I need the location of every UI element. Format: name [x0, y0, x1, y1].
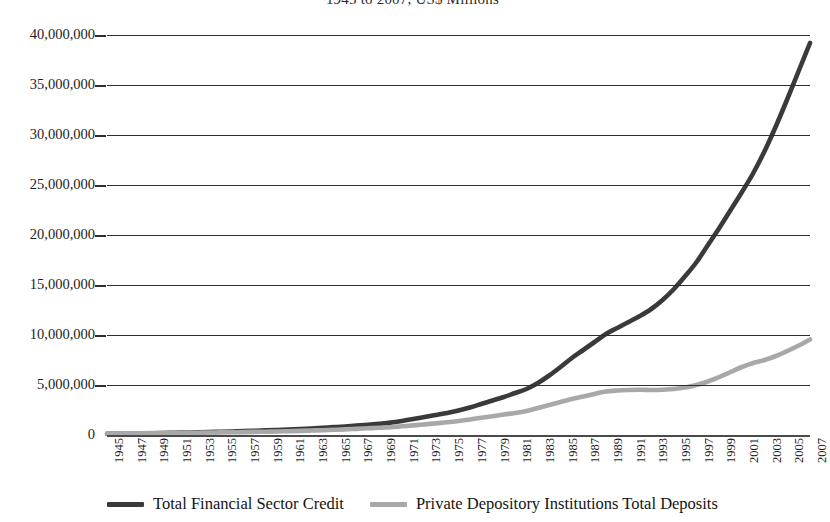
x-axis-tick-label: 1991 [634, 438, 649, 463]
x-axis-labels: 1945194719491951195319551957195919611963… [107, 438, 810, 486]
gridline [107, 335, 810, 336]
y-axis-tick-mark [95, 35, 106, 37]
x-axis-tick-label: 2003 [770, 438, 785, 463]
y-axis-labels: 40,000,00035,000,00030,000,00025,000,000… [0, 0, 95, 522]
x-axis-tick-label: 1981 [520, 438, 535, 463]
legend-color-swatch [370, 502, 407, 507]
x-axis-line [107, 435, 810, 437]
y-axis-tick-mark [95, 85, 106, 87]
x-axis-tick-label: 1965 [339, 438, 354, 463]
x-axis-tick-label: 1949 [157, 438, 172, 463]
y-axis-tick-mark [95, 335, 106, 337]
x-axis-tick-label: 1953 [203, 438, 218, 463]
x-axis-tick-label: 1995 [679, 438, 694, 463]
legend-item[interactable]: Private Depository Institutions Total De… [370, 494, 718, 514]
x-axis-tick-label: 1969 [384, 438, 399, 463]
gridline [107, 35, 810, 36]
gridline [107, 285, 810, 286]
y-axis-tick-label: 30,000,000 [0, 127, 95, 142]
gridline [107, 135, 810, 136]
gridline [107, 85, 810, 86]
y-axis-tick-mark [95, 185, 106, 187]
y-axis-tick-label: 25,000,000 [0, 177, 95, 192]
chart-legend: Total Financial Sector CreditPrivate Dep… [0, 489, 825, 519]
y-axis-tick-label: 5,000,000 [0, 377, 95, 392]
x-axis-tick-label: 1977 [475, 438, 490, 463]
x-axis-tick-label: 1973 [429, 438, 444, 463]
legend-label: Total Financial Sector Credit [153, 494, 344, 514]
legend-item[interactable]: Total Financial Sector Credit [107, 494, 344, 514]
x-axis-tick-label: 1975 [452, 438, 467, 463]
x-axis-tick-label: 2007 [815, 438, 830, 463]
x-axis-tick-label: 1989 [611, 438, 626, 463]
x-axis-tick-label: 1997 [702, 438, 717, 463]
y-axis-tick-mark [95, 235, 106, 237]
legend-color-swatch [107, 502, 144, 507]
y-axis-tick-mark [95, 135, 106, 137]
x-axis-tick-label: 1971 [407, 438, 422, 463]
x-axis-tick-label: 1955 [225, 438, 240, 463]
x-axis-tick-label: 1947 [135, 438, 150, 463]
series-line [107, 43, 810, 434]
y-axis-tick-label: 15,000,000 [0, 277, 95, 292]
legend-label: Private Depository Institutions Total De… [416, 494, 718, 514]
x-axis-tick-label: 2001 [747, 438, 762, 463]
x-axis-tick-label: 1985 [566, 438, 581, 463]
plot-area [107, 35, 810, 435]
x-axis-tick-label: 1945 [112, 438, 127, 463]
y-axis-tick-label: 35,000,000 [0, 77, 95, 92]
x-axis-tick-label: 1963 [316, 438, 331, 463]
x-axis-tick-label: 1983 [543, 438, 558, 463]
y-axis-tick-label: 20,000,000 [0, 227, 95, 242]
series-line [107, 340, 810, 434]
y-axis-tick-mark [95, 285, 106, 287]
x-axis-tick-label: 1979 [498, 438, 513, 463]
x-axis-tick-label: 1993 [656, 438, 671, 463]
x-axis-tick-label: 1987 [588, 438, 603, 463]
x-axis-tick-label: 1957 [248, 438, 263, 463]
x-axis-tick-label: 1967 [361, 438, 376, 463]
y-axis-tick-mark [95, 385, 106, 387]
y-axis-tick-label: 0 [0, 427, 95, 442]
x-axis-tick-label: 1999 [724, 438, 739, 463]
y-axis-tick-label: 10,000,000 [0, 327, 95, 342]
gridline [107, 385, 810, 386]
x-axis-tick-label: 1959 [271, 438, 286, 463]
y-axis-tick-label: 40,000,000 [0, 27, 95, 42]
chart-title: 1945 to 2007, US$ Millions [0, 0, 825, 8]
gridline [107, 235, 810, 236]
x-axis-tick-label: 2005 [792, 438, 807, 463]
x-axis-tick-label: 1961 [293, 438, 308, 463]
x-axis-tick-label: 1951 [180, 438, 195, 463]
gridline [107, 185, 810, 186]
